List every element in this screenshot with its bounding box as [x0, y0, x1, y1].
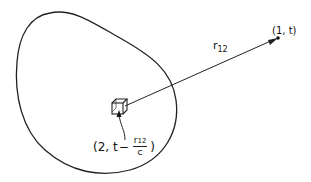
fraction-numerator: r12: [133, 136, 148, 147]
distance-label: r12: [213, 40, 228, 51]
source-prefix: (2, t: [93, 141, 118, 153]
distance-subscript: 12: [218, 45, 228, 54]
minus-sign: −: [119, 141, 129, 153]
source-point-label: (2, t − r12 c ): [93, 136, 155, 157]
diagram-svg: [0, 0, 311, 182]
source-suffix: ): [150, 141, 155, 153]
diagram-canvas: (1, t) r12 (2, t − r12 c ): [0, 0, 311, 182]
field-point-label: (1, t): [272, 26, 296, 36]
arrowhead-icon: [268, 38, 278, 45]
distance-symbol: r: [213, 39, 218, 52]
fraction-denominator: c: [138, 147, 143, 157]
paren-close: ): [293, 25, 297, 36]
r12-line: [125, 40, 273, 106]
fraction: r12 c: [133, 136, 148, 157]
num-subscript: 12: [137, 137, 146, 145]
field-point-dot: [276, 36, 280, 40]
